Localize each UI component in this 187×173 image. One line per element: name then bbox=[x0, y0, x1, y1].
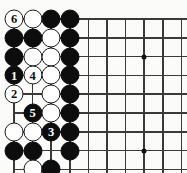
white-stone[interactable] bbox=[5, 122, 24, 141]
white-stone[interactable] bbox=[5, 10, 24, 29]
white-stone[interactable] bbox=[23, 122, 42, 141]
black-stone[interactable] bbox=[5, 66, 24, 85]
white-stone[interactable] bbox=[42, 28, 61, 47]
black-stone[interactable] bbox=[5, 47, 24, 66]
white-stone[interactable] bbox=[23, 10, 42, 29]
black-stone[interactable] bbox=[42, 122, 61, 141]
black-stone[interactable] bbox=[42, 10, 61, 29]
black-stone[interactable] bbox=[23, 28, 42, 47]
black-stone[interactable] bbox=[60, 10, 79, 29]
black-stone[interactable] bbox=[5, 28, 24, 47]
white-stone[interactable] bbox=[23, 47, 42, 66]
black-stone[interactable] bbox=[60, 28, 79, 47]
black-stone[interactable] bbox=[5, 141, 24, 160]
stone-layer: 614253 bbox=[0, 0, 187, 173]
black-stone[interactable] bbox=[60, 122, 79, 141]
white-stone[interactable] bbox=[23, 160, 42, 173]
black-stone[interactable] bbox=[60, 104, 79, 123]
black-stone[interactable] bbox=[60, 66, 79, 85]
white-stone[interactable] bbox=[42, 85, 61, 104]
white-stone[interactable] bbox=[42, 104, 61, 123]
black-stone[interactable] bbox=[23, 104, 42, 123]
black-stone[interactable] bbox=[23, 141, 42, 160]
black-stone[interactable] bbox=[60, 85, 79, 104]
white-stone[interactable] bbox=[23, 66, 42, 85]
go-board-diagram: 614253 bbox=[0, 0, 187, 173]
black-stone[interactable] bbox=[60, 141, 79, 160]
white-stone[interactable] bbox=[5, 85, 24, 104]
white-stone[interactable] bbox=[42, 66, 61, 85]
black-stone[interactable] bbox=[60, 47, 79, 66]
black-stone[interactable] bbox=[42, 160, 61, 173]
white-stone[interactable] bbox=[42, 47, 61, 66]
